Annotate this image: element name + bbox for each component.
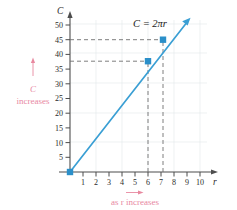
x-tick-label: 6 xyxy=(146,178,150,187)
x-tick-label: 5 xyxy=(133,178,137,187)
y-axis xyxy=(67,11,72,172)
annotation-increases-label: increases xyxy=(17,96,50,106)
y-tick-label: 50 xyxy=(55,21,63,30)
data-points xyxy=(67,37,166,176)
up-arrow-head-icon xyxy=(31,58,35,64)
x-tick-label: 10 xyxy=(196,178,204,187)
y-tick-label: 10 xyxy=(55,139,63,148)
x-tick-label: 8 xyxy=(172,178,176,187)
annotation-bottom-label: as r increases xyxy=(111,197,159,207)
data-point-marker-origin xyxy=(67,169,73,175)
y-axis-label: C xyxy=(57,6,64,16)
x-axis-label: r xyxy=(213,177,217,187)
x-tick-label: 2 xyxy=(94,178,98,187)
y-tick-label: 35 xyxy=(55,65,63,74)
x-tick-label: 7 xyxy=(159,178,163,187)
x-tick-label: 9 xyxy=(185,178,189,187)
x-axis-ticks xyxy=(83,172,200,177)
y-axis-tick-labels: 5 10 15 20 25 30 35 40 45 50 xyxy=(55,21,63,162)
data-line xyxy=(70,18,191,172)
y-axis-arrowhead xyxy=(67,11,72,18)
annotation-as-r-increases: as r increases xyxy=(111,190,159,207)
grid-lines xyxy=(70,20,207,172)
x-axis-tick-labels: 1 2 3 4 5 6 7 8 9 10 xyxy=(81,178,204,187)
annotation-c-increases: C increases xyxy=(17,58,50,107)
y-tick-label: 25 xyxy=(55,94,63,103)
x-tick-label: 4 xyxy=(120,178,124,187)
data-point-marker-7 xyxy=(160,37,166,43)
x-tick-label: 1 xyxy=(81,178,85,187)
x-axis-arrowhead xyxy=(211,169,218,174)
chart-canvas: 5 10 15 20 25 30 35 40 45 50 1 2 xyxy=(0,0,237,210)
y-tick-label: 45 xyxy=(55,36,63,45)
data-point-marker-6 xyxy=(145,58,151,64)
y-axis-ticks xyxy=(66,25,71,157)
y-tick-label: 5 xyxy=(59,153,63,162)
circumference-radius-chart: 5 10 15 20 25 30 35 40 45 50 1 2 xyxy=(0,0,237,210)
right-arrow-head-icon xyxy=(138,190,144,194)
y-tick-label: 15 xyxy=(55,124,63,133)
equation-label: C = 2πr xyxy=(133,18,168,29)
annotation-c-label: C xyxy=(30,84,37,94)
y-tick-label: 40 xyxy=(55,50,63,59)
y-tick-label: 20 xyxy=(55,109,63,118)
y-tick-label: 30 xyxy=(55,80,63,89)
x-tick-label: 3 xyxy=(107,178,111,187)
